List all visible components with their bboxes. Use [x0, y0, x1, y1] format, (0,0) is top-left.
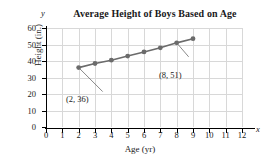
y-axis-tick [42, 111, 47, 112]
y-axis-tick [42, 127, 47, 128]
data-point-marker [93, 61, 98, 66]
y-axis-tick [42, 45, 47, 46]
y-axis-tick-label: 30 [2, 74, 36, 83]
y-axis-tick [42, 78, 47, 79]
annotation-leader-line [177, 43, 189, 57]
y-axis-tick-label: 0 [2, 123, 36, 132]
annotation-leader-line [79, 68, 103, 92]
x-axis-tick-label: 12 [233, 131, 251, 140]
data-point-annotation: (8, 51) [159, 70, 182, 80]
x-axis-tick-label: 8 [168, 131, 186, 140]
y-axis-tick [42, 94, 47, 95]
y-axis-tick-label: 60 [2, 24, 36, 33]
x-axis-tick-label: 1 [53, 131, 71, 140]
x-axis-tick-label: 0 [37, 131, 55, 140]
x-axis-tick-label: 9 [184, 131, 202, 140]
data-point-marker [191, 36, 196, 41]
x-axis-tick-label: 7 [151, 131, 169, 140]
x-axis-tick-label: 2 [70, 131, 88, 140]
x-axis-tick-label: 11 [217, 131, 235, 140]
y-axis-tick [42, 28, 47, 29]
data-point-marker [109, 58, 114, 63]
data-point-marker [125, 54, 130, 59]
x-axis-tick-label: 3 [86, 131, 104, 140]
y-axis-tick-label: 10 [2, 107, 36, 116]
x-axis-tick-label: 4 [102, 131, 120, 140]
data-point-marker [158, 45, 163, 50]
x-axis-tick-label: 6 [135, 131, 153, 140]
y-axis-tick [42, 61, 47, 62]
y-axis-tick-label: 40 [2, 57, 36, 66]
x-axis-tick-label: 10 [200, 131, 218, 140]
y-axis-tick-label: 50 [2, 41, 36, 50]
x-axis-tick-label: 5 [119, 131, 137, 140]
chart-figure: Average Height of Boys Based on Age y x … [0, 0, 269, 162]
y-axis-tick-label: 20 [2, 90, 36, 99]
data-point-annotation: (2, 36) [66, 94, 89, 104]
data-point-marker [142, 50, 147, 55]
